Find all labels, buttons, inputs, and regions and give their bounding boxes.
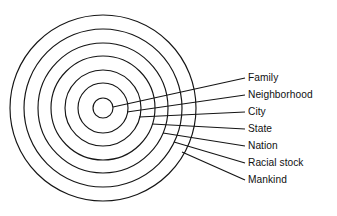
figure-root: FamilyNeighborhoodCityStateNationRacial … — [0, 0, 337, 216]
ring-city — [65, 70, 141, 146]
ring-family — [93, 98, 113, 118]
leader-line-mankind — [182, 152, 245, 180]
label-family: Family — [248, 72, 279, 83]
concentric-circles-diagram: FamilyNeighborhoodCityStateNationRacial … — [0, 0, 337, 216]
rings-group — [10, 15, 196, 201]
label-neighborhood: Neighborhood — [248, 89, 313, 100]
ring-state — [51, 56, 155, 160]
label-city: City — [248, 106, 267, 117]
leader-line-neighborhood — [127, 95, 245, 112]
ring-nation — [38, 43, 168, 173]
label-state: State — [248, 123, 272, 134]
label-nation: Nation — [248, 140, 278, 151]
ring-neighborhood — [78, 83, 128, 133]
leader-line-family — [113, 78, 245, 107]
label-mankind: Mankind — [248, 174, 287, 185]
ring-labels-group: FamilyNeighborhoodCityStateNationRacial … — [248, 72, 313, 185]
leader-line-state — [152, 124, 245, 129]
label-racial-stock: Racial stock — [248, 157, 304, 168]
